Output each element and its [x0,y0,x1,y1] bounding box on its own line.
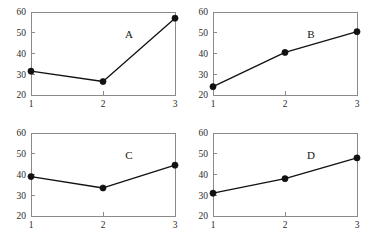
data-series-line [31,18,175,81]
chart-panel-a: 2030405060123A [0,0,182,122]
data-point-marker [100,185,106,191]
x-axis-tick-label: 3 [173,220,178,230]
plot-frame [213,133,357,216]
panel-title-letter: B [307,28,314,40]
panel-title-letter: A [125,28,133,40]
data-point-marker [354,29,360,35]
data-point-marker [210,190,216,196]
data-point-marker [210,84,216,90]
plot-frame [31,133,175,216]
data-series-line [213,32,357,87]
y-axis-tick-label: 30 [17,70,27,80]
data-point-marker [282,49,288,55]
y-axis-tick-label: 50 [17,28,27,38]
x-axis-tick-label: 3 [355,99,360,109]
y-axis-tick-label: 30 [199,70,209,80]
y-axis-tick-label: 40 [199,49,209,59]
chart-panel-c: 2030405060123C [0,121,182,243]
data-point-marker [100,78,106,84]
data-point-marker [354,155,360,161]
multi-panel-line-chart-figure: 2030405060123A 2030405060123B 2030405060… [0,0,365,244]
y-axis-tick-label: 50 [199,28,209,38]
x-axis-tick-label: 3 [355,220,360,230]
y-axis-tick-label: 60 [199,7,209,17]
y-axis-tick-label: 50 [17,149,27,159]
x-axis-tick-label: 2 [101,220,106,230]
y-axis-tick-label: 30 [199,191,209,201]
y-axis-tick-label: 40 [199,170,209,180]
y-axis-tick-label: 60 [199,128,209,138]
y-axis-tick-label: 60 [17,128,27,138]
panel-title-letter: D [307,149,315,161]
y-axis-tick-label: 50 [199,149,209,159]
chart-panel-d: 2030405060123D [182,121,364,243]
data-point-marker [172,162,178,168]
y-axis-tick-label: 20 [199,90,209,100]
x-axis-tick-label: 3 [173,99,178,109]
data-series-line [31,165,175,188]
x-axis-tick-label: 1 [29,99,34,109]
data-point-marker [172,15,178,21]
chart-panel-b: 2030405060123B [182,0,364,122]
x-axis-tick-label: 2 [283,220,288,230]
x-axis-tick-label: 1 [211,99,216,109]
x-axis-tick-label: 1 [211,220,216,230]
y-axis-tick-label: 20 [17,90,27,100]
y-axis-tick-label: 40 [17,49,27,59]
y-axis-tick-label: 20 [199,211,209,221]
x-axis-tick-label: 2 [101,99,106,109]
y-axis-tick-label: 40 [17,170,27,180]
x-axis-tick-label: 2 [283,99,288,109]
panel-title-letter: C [125,149,132,161]
y-axis-tick-label: 30 [17,191,27,201]
y-axis-tick-label: 20 [17,211,27,221]
data-point-marker [282,176,288,182]
data-point-marker [28,68,34,74]
data-point-marker [28,173,34,179]
x-axis-tick-label: 1 [29,220,34,230]
y-axis-tick-label: 60 [17,7,27,17]
